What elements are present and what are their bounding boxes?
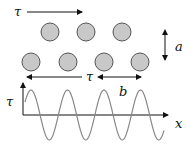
- atom: [95, 53, 113, 71]
- atom: [131, 53, 149, 71]
- shear-stress-diagram: τ a τ b τ x: [0, 0, 191, 148]
- atom-row-top: [41, 23, 131, 41]
- atom-spacing-label: b: [119, 84, 127, 99]
- y-axis-label: τ: [6, 94, 14, 109]
- atom: [113, 23, 131, 41]
- x-axis-label: x: [175, 116, 183, 131]
- shear-stress-top-label: τ: [14, 4, 22, 19]
- row-spacing-label: a: [175, 39, 183, 54]
- atom: [77, 23, 95, 41]
- atom: [22, 53, 40, 71]
- atom: [59, 53, 77, 71]
- shear-stress-bottom-label: τ: [86, 69, 94, 84]
- atom: [41, 23, 59, 41]
